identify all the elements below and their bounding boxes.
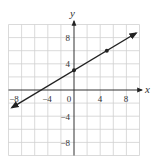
coordinate-plane: x y −8 −4 0 4 8 8 4 −4 −8 — [0, 0, 157, 166]
x-tick-label: −4 — [42, 94, 52, 104]
point-5-6 — [105, 49, 109, 53]
y-axis-label: y — [69, 7, 75, 19]
y-tick-label: 4 — [66, 59, 71, 69]
x-axis-label: x — [144, 83, 150, 95]
x-tick-label: 8 — [124, 94, 129, 104]
x-tick-label: 4 — [98, 94, 103, 104]
point-0-3 — [72, 68, 76, 72]
y-tick-label: −4 — [60, 112, 70, 122]
x-tick-label: −8 — [9, 94, 19, 104]
y-tick-label: 8 — [66, 33, 71, 43]
origin-label: 0 — [67, 94, 72, 104]
y-tick-label: −8 — [60, 138, 70, 148]
